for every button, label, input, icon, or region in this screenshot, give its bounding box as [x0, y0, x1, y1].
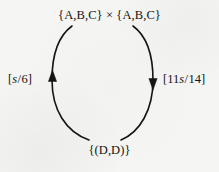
bottom-node-label: {(D,D)}	[0, 144, 219, 157]
right-label-numerator: 11	[167, 72, 179, 86]
down-arrowhead-icon	[149, 79, 157, 91]
left-label-close-bracket: ]	[28, 72, 32, 86]
up-arrowhead-icon	[48, 70, 56, 82]
right-edge-label: [11s/14]	[163, 73, 205, 86]
left-edge	[48, 26, 89, 140]
top-node-label: {A,B,C} × {A,B,C}	[0, 9, 219, 22]
left-arc-path	[52, 26, 89, 140]
left-edge-label: [s/6]	[8, 73, 32, 86]
right-label-close-bracket: ]	[201, 72, 205, 86]
right-label-denominator: 14	[189, 72, 202, 86]
right-arc-path	[121, 26, 153, 140]
right-edge	[121, 26, 157, 140]
diagram-figure: {A,B,C} × {A,B,C} {(D,D)} [s/6] [11s/14]	[0, 0, 219, 172]
